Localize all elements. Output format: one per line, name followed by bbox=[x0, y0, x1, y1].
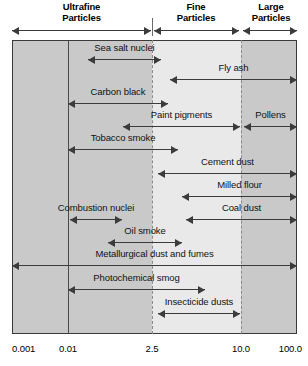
arrow-shaft bbox=[123, 126, 240, 127]
arrow-head-left-icon bbox=[70, 216, 77, 224]
arrow-head-right-icon bbox=[175, 239, 182, 247]
item-range-arrow-pollens bbox=[244, 122, 297, 131]
arrow-head-left-icon bbox=[108, 239, 115, 247]
category-range-arrow-fine bbox=[154, 26, 239, 35]
arrow-shaft bbox=[12, 265, 297, 266]
arrow-head-right-icon bbox=[232, 27, 239, 35]
item-label-combustion-nuclei: Combustion nuclei bbox=[42, 203, 150, 213]
arrow-head-left-icon bbox=[182, 193, 189, 201]
arrow-shaft bbox=[154, 30, 239, 31]
arrow-shaft bbox=[243, 30, 297, 31]
arrow-shaft bbox=[182, 196, 297, 197]
arrow-head-right-icon bbox=[290, 216, 297, 224]
item-range-arrow-coal-dust bbox=[186, 215, 297, 224]
arrow-head-left-icon bbox=[123, 123, 130, 131]
item-label-coal-dust: Coal dust bbox=[186, 203, 297, 213]
axis-tick-label-10-0: 10.0 bbox=[220, 343, 262, 354]
arrow-head-right-icon bbox=[198, 286, 205, 294]
arrow-head-left-icon bbox=[243, 27, 250, 35]
arrow-shaft bbox=[158, 313, 240, 314]
arrow-shaft bbox=[12, 30, 151, 31]
item-label-oil-smoke: Oil smoke bbox=[108, 226, 182, 236]
item-range-arrow-milled-flour bbox=[182, 192, 297, 201]
arrow-head-left-icon bbox=[158, 310, 165, 318]
item-range-arrow-metallurgical-dust bbox=[12, 261, 297, 270]
arrow-head-right-icon bbox=[154, 56, 161, 64]
axis-tick-label-2-5: 2.5 bbox=[133, 343, 171, 354]
arrow-head-left-icon bbox=[154, 27, 161, 35]
arrow-shaft bbox=[68, 103, 168, 104]
item-range-arrow-insecticide-dusts bbox=[158, 309, 240, 318]
category-header-fine-line1: Fine bbox=[186, 1, 205, 12]
category-header-ultrafine-line2: Particles bbox=[62, 12, 101, 23]
category-header-ultrafine: Ultrafine Particles bbox=[12, 2, 151, 23]
item-range-arrow-fly-ash bbox=[170, 75, 297, 84]
item-range-arrow-oil-smoke bbox=[108, 238, 182, 247]
arrow-shaft bbox=[158, 173, 297, 174]
category-header-large-line2: Particles bbox=[252, 12, 291, 23]
item-label-fly-ash: Fly ash bbox=[170, 63, 297, 73]
arrow-head-left-icon bbox=[88, 56, 95, 64]
item-range-arrow-combustion-nuclei bbox=[70, 215, 122, 224]
arrow-head-right-icon bbox=[171, 146, 178, 154]
arrow-head-right-icon bbox=[233, 123, 240, 131]
item-range-arrow-paint-pigments bbox=[123, 122, 240, 131]
arrow-head-right-icon bbox=[161, 100, 168, 108]
item-label-milled-flour: Milled flour bbox=[182, 180, 297, 190]
arrow-shaft bbox=[68, 149, 178, 150]
arrow-head-right-icon bbox=[233, 310, 240, 318]
item-range-arrow-photochemical-smog bbox=[68, 285, 205, 294]
item-label-tobacco-smoke: Tobacco smoke bbox=[68, 133, 178, 143]
arrow-head-left-icon bbox=[12, 262, 19, 270]
arrow-head-right-icon bbox=[290, 170, 297, 178]
arrow-shaft bbox=[68, 289, 205, 290]
category-range-arrow-large bbox=[243, 26, 297, 35]
arrow-shaft bbox=[170, 79, 297, 80]
category-header-large: Large Particles bbox=[242, 2, 300, 23]
arrow-shaft bbox=[186, 219, 297, 220]
arrow-head-left-icon bbox=[68, 100, 75, 108]
arrow-head-right-icon bbox=[290, 193, 297, 201]
arrow-head-right-icon bbox=[290, 27, 297, 35]
arrow-shaft bbox=[88, 59, 161, 60]
item-label-sea-salt-nuclei: Sea salt nuclei bbox=[88, 43, 161, 53]
item-range-arrow-cement-dust bbox=[158, 169, 297, 178]
category-header-fine-line2: Particles bbox=[177, 12, 216, 23]
arrow-head-left-icon bbox=[12, 27, 19, 35]
arrow-head-left-icon bbox=[244, 123, 251, 131]
category-header-large-line1: Large bbox=[258, 1, 283, 12]
item-label-carbon-black: Carbon black bbox=[68, 87, 168, 97]
arrow-head-left-icon bbox=[186, 216, 193, 224]
arrow-head-left-icon bbox=[170, 76, 177, 84]
category-header-ultrafine-line1: Ultrafine bbox=[63, 1, 101, 12]
item-range-arrow-tobacco-smoke bbox=[68, 145, 178, 154]
item-label-paint-pigments: Paint pigments bbox=[123, 110, 240, 120]
item-label-photochemical-smog: Photochemical smog bbox=[68, 273, 205, 283]
arrow-head-left-icon bbox=[68, 146, 75, 154]
arrow-head-right-icon bbox=[290, 76, 297, 84]
particle-size-chart: Ultrafine Particles Fine Particles Large… bbox=[0, 0, 308, 366]
category-range-arrow-ultrafine bbox=[12, 26, 151, 35]
arrow-head-right-icon bbox=[290, 123, 297, 131]
axis-tick-label-0-001: 0.001 bbox=[12, 343, 52, 354]
arrow-head-left-icon bbox=[68, 286, 75, 294]
axis-tick-label-100-0: 100.0 bbox=[262, 343, 302, 354]
item-label-insecticide-dusts: Insecticide dusts bbox=[158, 297, 240, 307]
arrow-shaft bbox=[108, 242, 182, 243]
arrow-head-left-icon bbox=[158, 170, 165, 178]
axis-tick-label-0-01: 0.01 bbox=[48, 343, 88, 354]
arrow-head-right-icon bbox=[115, 216, 122, 224]
arrow-head-right-icon bbox=[144, 27, 151, 35]
item-label-metallurgical-dust: Metallurgical dust and fumes bbox=[12, 249, 297, 259]
arrow-head-right-icon bbox=[290, 262, 297, 270]
item-range-arrow-carbon-black bbox=[68, 99, 168, 108]
item-label-cement-dust: Cement dust bbox=[158, 157, 297, 167]
item-range-arrow-sea-salt-nuclei bbox=[88, 55, 161, 64]
header-divider-line bbox=[152, 18, 153, 36]
category-header-fine: Fine Particles bbox=[153, 2, 239, 23]
item-label-pollens: Pollens bbox=[244, 110, 297, 120]
